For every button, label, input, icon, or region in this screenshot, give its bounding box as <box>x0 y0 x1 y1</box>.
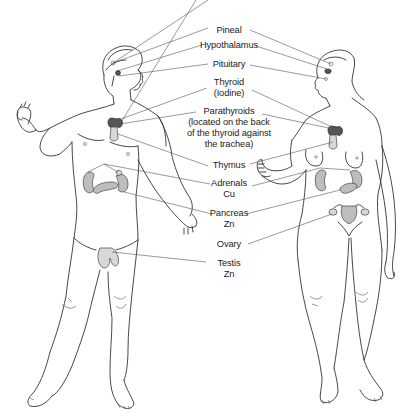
label-testis: Testis Zn <box>217 258 240 280</box>
endocrine-diagram: Pineal Hypothalamus Pituitary Thyroid (I… <box>0 0 415 418</box>
label-adrenals-mineral: Cu <box>211 189 247 200</box>
label-pancreas-mineral: Zn <box>210 219 248 230</box>
female-figure <box>257 50 395 404</box>
label-thyroid-text: Thyroid <box>214 77 245 88</box>
label-parathyroids-note-3: the trachea) <box>187 139 271 150</box>
label-adrenals-text: Adrenals <box>211 178 247 189</box>
label-adrenals: Adrenals Cu <box>211 178 247 200</box>
label-ovary: Ovary <box>217 239 241 250</box>
label-parathyroids-note-1: (located on the back <box>187 117 271 128</box>
label-pituitary: Pituitary <box>213 59 246 70</box>
label-thymus: Thymus <box>213 160 245 171</box>
male-figure <box>17 46 197 409</box>
label-parathyroids-text: Parathyroids <box>187 106 271 117</box>
label-pineal: Pineal <box>216 25 241 36</box>
label-pancreas-text: Pancreas <box>210 208 248 219</box>
label-thyroid: Thyroid (Iodine) <box>214 77 245 99</box>
label-parathyroids-note-2: of the thyroid against <box>187 128 271 139</box>
label-testis-mineral: Zn <box>217 269 240 280</box>
label-pituitary-text: Pituitary <box>213 59 246 70</box>
label-parathyroids: Parathyroids (located on the back of the… <box>187 106 271 150</box>
label-ovary-text: Ovary <box>217 239 241 250</box>
label-pineal-text: Pineal <box>216 25 241 36</box>
label-testis-text: Testis <box>217 258 240 269</box>
label-hypothalamus-text: Hypothalamus <box>200 40 258 51</box>
label-pancreas: Pancreas Zn <box>210 208 248 230</box>
label-hypothalamus: Hypothalamus <box>200 40 258 51</box>
label-thymus-text: Thymus <box>213 160 245 171</box>
diagram-artwork <box>0 0 415 418</box>
label-thyroid-note: (Iodine) <box>214 88 245 99</box>
